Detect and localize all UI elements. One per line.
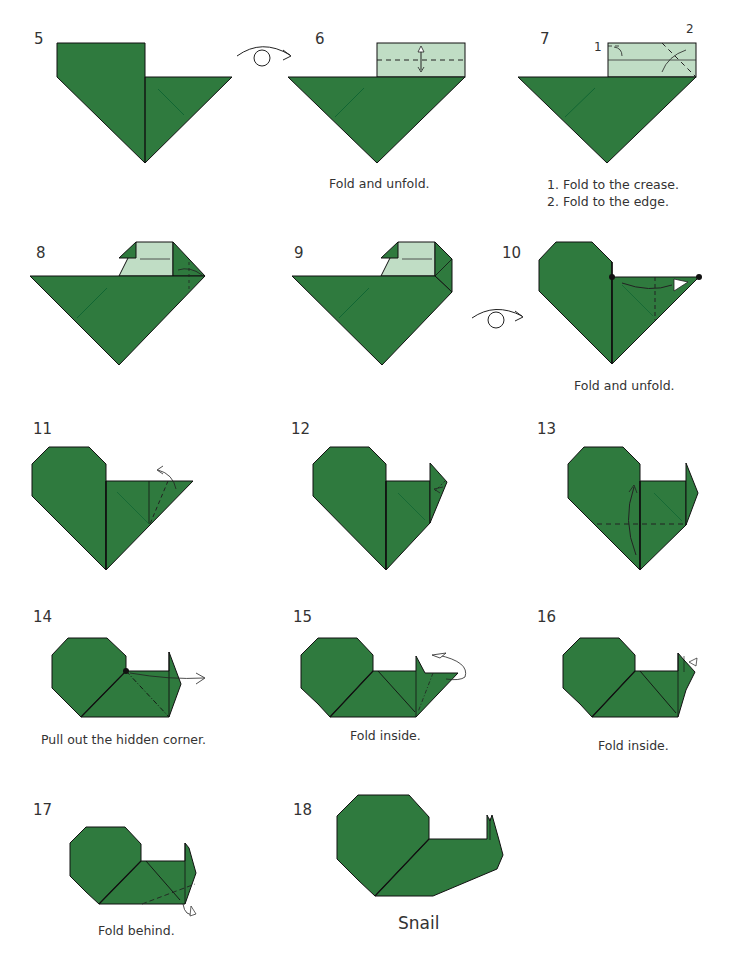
- step-18-diagram: [0, 0, 734, 965]
- final-model-title: Snail: [398, 913, 439, 933]
